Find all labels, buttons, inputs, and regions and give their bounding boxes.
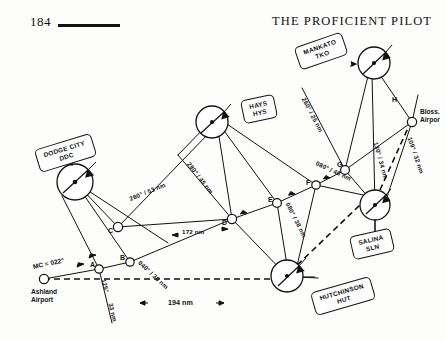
fix-label-c: C xyxy=(108,227,113,235)
dir-arrow-de xyxy=(241,210,248,214)
fix-label-h: H xyxy=(392,96,397,104)
mc-arrow-b xyxy=(89,254,96,258)
dim-arrow-left xyxy=(140,301,148,305)
airport-ashland-line2: Airport xyxy=(31,296,57,304)
book-page: 184 THE PROFICIENT PILOT xyxy=(0,0,445,341)
rose-center-ddc xyxy=(73,180,78,185)
fix-e-circle xyxy=(273,199,282,208)
spoke-hut-1 xyxy=(277,203,287,265)
fix-label-b: B xyxy=(120,254,125,262)
rose-center-tko xyxy=(372,61,376,65)
spoke-hys-3 xyxy=(224,122,316,185)
fix-label-e: E xyxy=(268,196,273,204)
fix-f-circle xyxy=(312,181,320,189)
seg-arrow-left xyxy=(172,233,178,237)
leader-tko xyxy=(350,62,356,66)
pointer-hys xyxy=(224,104,231,112)
fix-label-f: F xyxy=(306,179,310,187)
leg-ashland-a xyxy=(44,269,99,279)
rose-center-sln xyxy=(373,203,377,207)
pointer-ddc xyxy=(88,162,96,170)
airport-blosser-line2: Airpor xyxy=(420,116,440,124)
leg-blosser-sln xyxy=(386,122,412,200)
seg-arrow-right xyxy=(222,227,228,231)
rose-center-hut xyxy=(285,274,289,278)
annotation-segment-172: 172 nm xyxy=(182,229,205,236)
navigation-diagram xyxy=(0,0,445,341)
fix-label-g: G xyxy=(337,161,342,169)
fix-a-circle xyxy=(95,265,103,273)
dim-arrow-right xyxy=(216,301,224,305)
airport-ashland-line1: Ashland xyxy=(31,288,57,296)
leg-d-e xyxy=(232,203,277,219)
airport-label-ashland: Ashland Airport xyxy=(31,288,57,304)
blosser-airport-circle xyxy=(407,117,416,126)
fix-label-d: D xyxy=(222,219,227,227)
radial-ddc-a xyxy=(62,196,99,269)
fix-b-circle xyxy=(126,258,134,266)
spoke-sln-f xyxy=(316,185,368,196)
dir-arrow-ef xyxy=(289,192,296,196)
airport-label-blosser: Bloss. Airpor xyxy=(420,108,440,124)
mc-arrow-a xyxy=(77,263,84,267)
annotation-total-distance: 194 nm xyxy=(168,299,193,307)
pointer-tko xyxy=(385,45,392,53)
fix-label-a: A xyxy=(90,261,95,269)
airport-blosser-line1: Bloss. xyxy=(420,108,440,116)
spoke-tko-3 xyxy=(372,74,375,205)
rose-center-hys xyxy=(210,120,214,124)
fix-c-circle xyxy=(113,222,122,231)
dir-arrow-fg xyxy=(324,175,331,179)
leg-e-f xyxy=(277,185,316,203)
fix-d-circle xyxy=(227,214,236,223)
ashland-airport-circle xyxy=(39,274,48,283)
